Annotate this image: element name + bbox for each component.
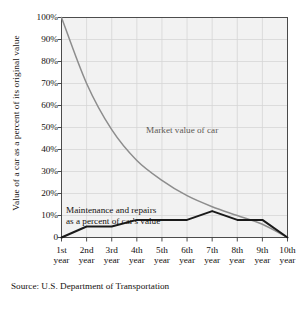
x-tick-unit: year [254,255,270,266]
x-axis-tick-label: 4thyear [129,245,145,266]
x-tick-ordinal: 4th [129,245,145,256]
x-axis-tick-label: 3rdyear [104,245,120,266]
x-axis-tick-label: 2ndyear [79,245,95,266]
x-tick-ordinal: 10th [279,245,295,256]
x-tick-ordinal: 2nd [79,245,95,256]
x-tick-unit: year [179,255,195,266]
x-axis-tick-label: 1styear [54,245,70,266]
x-tick-unit: year [54,255,70,266]
annotation-maintenance-line-2: as a percent of car's value [66,216,160,227]
x-tick-ordinal: 6th [179,245,195,256]
x-tick-unit: year [204,255,220,266]
x-tick-ordinal: 8th [229,245,245,256]
x-tick-unit: year [154,255,170,266]
x-axis-tick-label: 9thyear [254,245,270,266]
x-tick-unit: year [79,255,95,266]
source-note: Source: U.S. Department of Transportatio… [11,281,169,291]
annotation-market-value: Market value of car [146,125,218,136]
x-axis-tick-label: 10thyear [279,245,295,266]
annotation-maintenance-line-1: Maintenance and repairs [66,205,160,216]
x-axis-tick-labels: 1styear2ndyear3rdyear4thyear5thyear6thye… [0,0,306,309]
x-tick-unit: year [229,255,245,266]
x-tick-unit: year [104,255,120,266]
x-axis-tick-label: 5thyear [154,245,170,266]
x-tick-ordinal: 1st [54,245,70,256]
x-tick-unit: year [279,255,295,266]
x-tick-ordinal: 3rd [104,245,120,256]
x-tick-unit: year [129,255,145,266]
x-tick-ordinal: 7th [204,245,220,256]
x-tick-ordinal: 5th [154,245,170,256]
x-axis-tick-label: 8thyear [229,245,245,266]
chart-figure: Value of a car as a percent of its origi… [0,0,306,309]
x-axis-tick-label: 7thyear [204,245,220,266]
annotation-maintenance: Maintenance and repairs as a percent of … [66,205,160,228]
x-tick-ordinal: 9th [254,245,270,256]
x-axis-tick-label: 6thyear [179,245,195,266]
